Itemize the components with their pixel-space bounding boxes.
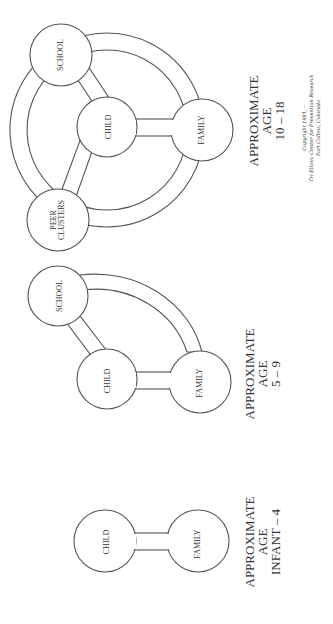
copyright-line-1: Copyright 1991, – (301, 105, 308, 151)
caption-line-3: 5 – 9 (268, 361, 283, 387)
caption-line-3: INFANT – 4 (268, 509, 283, 575)
label-child: CHILD (102, 530, 111, 555)
diagram-age-5-9: SCHOOL CHILD FAMILY APPROXIMATE AGE 5 – … (28, 266, 283, 420)
copyright-line-3: Fort Collins, Colorado (315, 100, 321, 157)
label-family: FAMILY (197, 115, 206, 144)
diagram-age-infant-4: CHILD FAMILY APPROXIMATE AGE INFANT – 4 (74, 496, 283, 587)
label-child: CHILD (103, 369, 112, 394)
copyright-notice: Copyright 1991, – Tri-Ethnic Center for … (301, 74, 321, 182)
caption-line-3: 10 – 18 (272, 102, 287, 141)
socialization-diagram: SCHOOL CHILD FAMILY PEER CLUSTERS APPROX… (0, 0, 333, 624)
copyright-line-2: Tri-Ethnic Center for Prevention Researc… (308, 74, 315, 182)
label-family: FAMILY (193, 529, 202, 558)
label-clusters: CLUSTERS (57, 200, 66, 240)
label-school: SCHOOL (55, 280, 64, 312)
label-family: FAMILY (195, 368, 204, 397)
label-school: SCHOOL (56, 39, 65, 71)
diagram-age-10-18: SCHOOL CHILD FAMILY PEER CLUSTERS APPROX… (10, 24, 287, 251)
label-child: CHILD (104, 115, 113, 140)
